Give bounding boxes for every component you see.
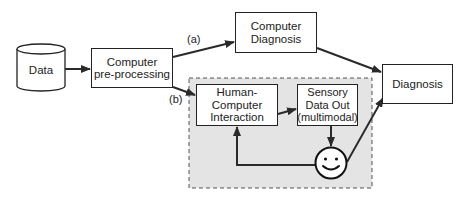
smiley-face-icon bbox=[316, 148, 347, 179]
edge-a-preprocessing-to-computer-diagnosis bbox=[173, 42, 234, 57]
node-sensory-label: Sensory Data Out (multimodal) bbox=[295, 84, 360, 126]
edge-label-b: (b) bbox=[169, 93, 182, 105]
sensory-line1: Sensory bbox=[307, 86, 347, 99]
node-diagnosis-label: Diagnosis bbox=[382, 64, 453, 104]
edge-label-a: (a) bbox=[187, 33, 200, 45]
hci-line2: Computer bbox=[212, 99, 263, 112]
sensory-line2: Data Out bbox=[305, 99, 349, 112]
sensory-line3: (multimodal) bbox=[297, 111, 358, 124]
hci-line1: Human- bbox=[217, 86, 258, 99]
edge-computer-diagnosis-to-diagnosis bbox=[317, 48, 381, 72]
hci-line3: Interaction bbox=[210, 111, 264, 124]
node-hci-label: Human- Computer Interaction bbox=[196, 84, 278, 126]
computer-diagnosis-line2: Diagnosis bbox=[251, 33, 302, 46]
node-data-label: Data bbox=[17, 55, 65, 85]
preprocessing-line1: Computer bbox=[107, 56, 158, 69]
preprocessing-line2: pre-processing bbox=[94, 68, 170, 81]
computer-diagnosis-line1: Computer bbox=[251, 20, 302, 33]
diagnosis-label-text: Diagnosis bbox=[392, 78, 443, 91]
data-label-text: Data bbox=[29, 64, 53, 77]
node-computer-preprocessing-label: Computer pre-processing bbox=[91, 48, 173, 88]
node-computer-diagnosis-label: Computer Diagnosis bbox=[235, 12, 317, 53]
